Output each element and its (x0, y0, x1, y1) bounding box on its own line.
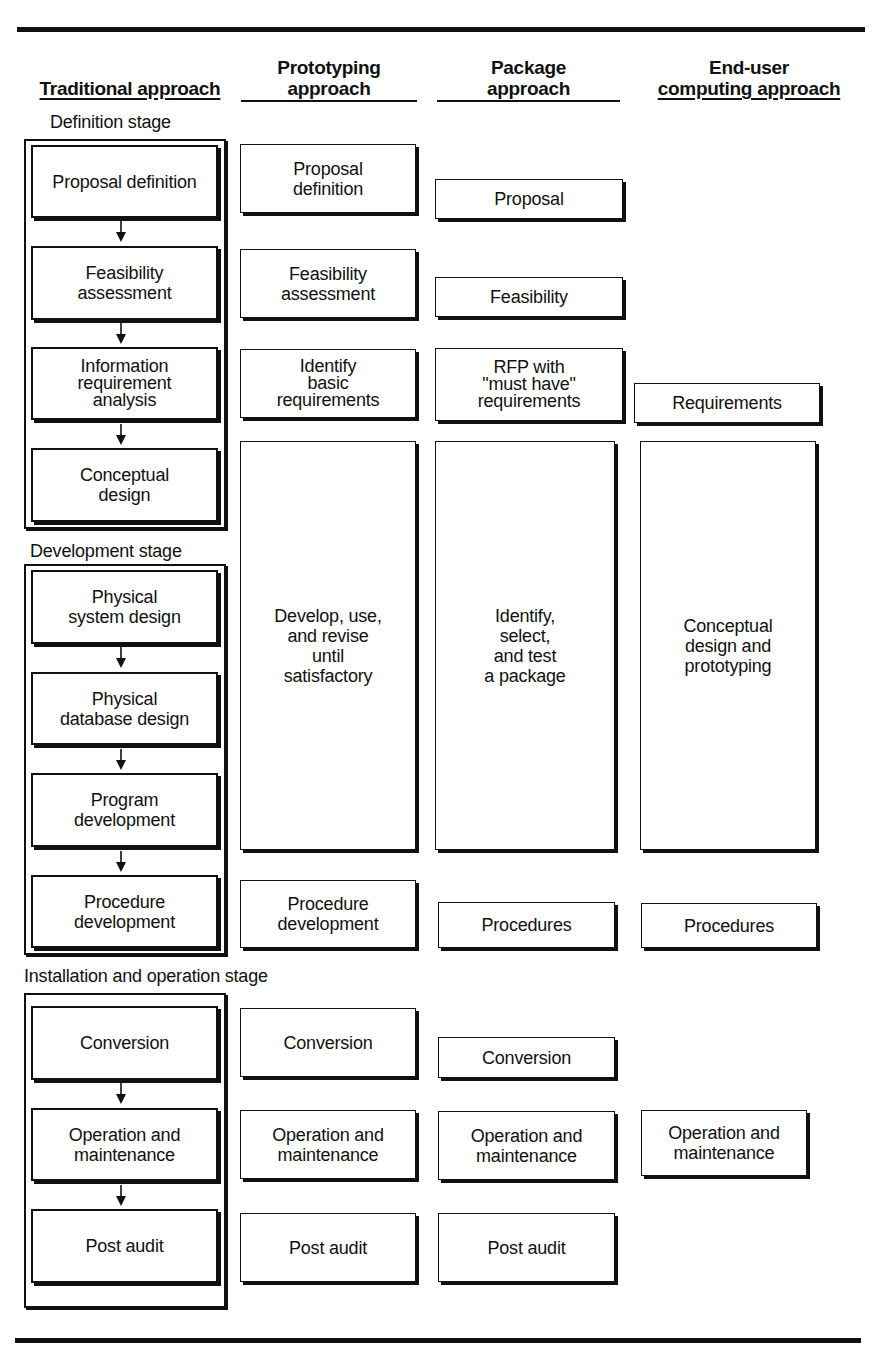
header-package: Package approach (437, 57, 620, 102)
pkg-operation-maintenance: Operation and maintenance (438, 1111, 615, 1180)
pkg-proposal: Proposal (435, 179, 623, 219)
arrow-down-icon (114, 221, 128, 241)
trad-feasibility-assessment: Feasibility assessment (31, 246, 218, 320)
proto-feasibility-assessment: Feasibility assessment (240, 249, 416, 318)
trad-post-audit: Post audit (31, 1209, 218, 1283)
header-end-user-line1: End-user (709, 57, 789, 78)
header-prototyping-line2: approach (241, 78, 417, 102)
arrow-down-icon (114, 851, 128, 871)
arrow-down-icon (114, 323, 128, 343)
top-rule (17, 27, 865, 32)
trad-conversion: Conversion (31, 1006, 218, 1080)
pkg-rfp-must-have: RFP with "must have" requirements (435, 348, 623, 421)
header-traditional-text: Traditional approach (20, 78, 240, 100)
arrow-down-icon (114, 424, 128, 444)
proto-procedure-development: Procedure development (240, 880, 416, 948)
trad-conceptual-design: Conceptual design (31, 448, 218, 522)
header-end-user-line2: computing approach (638, 78, 860, 100)
proto-operation-maintenance: Operation and maintenance (240, 1110, 416, 1179)
proto-develop-use-revise: Develop, use, and revise until satisfact… (240, 441, 416, 850)
trad-proposal-definition: Proposal definition (31, 145, 218, 218)
header-prototyping-line1: Prototyping (277, 57, 380, 78)
arrow-down-icon (114, 1185, 128, 1205)
proto-identify-basic-requirements: Identify basic requirements (240, 349, 416, 418)
bottom-rule (15, 1338, 861, 1343)
stage-installation-label: Installation and operation stage (24, 966, 268, 986)
trad-operation-maintenance: Operation and maintenance (31, 1108, 218, 1181)
arrow-down-icon (114, 647, 128, 667)
trad-physical-system-design: Physical system design (31, 570, 218, 644)
pkg-post-audit: Post audit (438, 1213, 615, 1282)
proto-post-audit: Post audit (240, 1213, 416, 1282)
trad-information-requirement-analysis: Information requirement analysis (31, 347, 218, 420)
arrow-down-icon (114, 749, 128, 769)
eu-conceptual-design-prototyping: Conceptual design and prototyping (640, 441, 816, 850)
eu-operation-maintenance: Operation and maintenance (641, 1110, 807, 1176)
header-prototyping: Prototyping approach (241, 57, 417, 102)
pkg-feasibility: Feasibility (435, 277, 623, 317)
header-traditional: Traditional approach (20, 78, 240, 100)
arrow-down-icon (114, 1083, 128, 1103)
trad-physical-database-design: Physical database design (31, 672, 218, 745)
stage-definition-label: Definition stage (50, 112, 171, 132)
header-package-line1: Package (491, 57, 566, 78)
header-end-user: End-user computing approach (638, 57, 860, 100)
pkg-identify-select-test: Identify, select, and test a package (435, 441, 615, 850)
proto-proposal-definition: Proposal definition (240, 144, 416, 213)
pkg-conversion: Conversion (438, 1037, 615, 1078)
header-package-line2: approach (437, 78, 620, 102)
pkg-procedures: Procedures (438, 902, 615, 948)
trad-program-development: Program development (31, 773, 218, 847)
trad-procedure-development: Procedure development (31, 875, 218, 948)
eu-procedures: Procedures (641, 903, 817, 948)
eu-requirements: Requirements (634, 383, 820, 423)
stage-development-label: Development stage (30, 541, 182, 561)
proto-conversion: Conversion (240, 1008, 416, 1077)
